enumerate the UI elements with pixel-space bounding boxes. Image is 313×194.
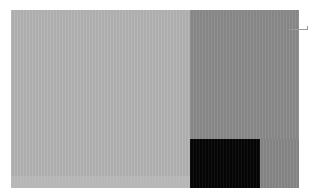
treemap-block-bottom-black — [190, 139, 260, 188]
treemap-block-bottom-right — [260, 139, 299, 188]
pointer-tick — [307, 26, 308, 30]
pointer-line — [289, 29, 307, 30]
bottom-strip — [11, 176, 190, 188]
treemap-block-large-left — [11, 10, 190, 188]
treemap-block-top-right — [190, 10, 299, 139]
